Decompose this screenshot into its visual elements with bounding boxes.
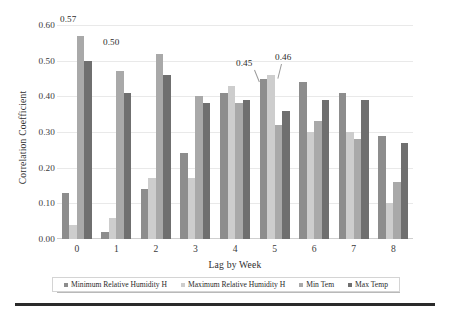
y-axis-tick: 0.60 [39, 20, 55, 30]
legend-item-label: Min Tem [306, 280, 334, 289]
bar[interactable] [346, 132, 354, 239]
bar[interactable] [307, 132, 315, 239]
data-label: 0.45 [236, 58, 252, 68]
square-swatch-icon [299, 283, 303, 287]
legend-item-label: Minimum Relative Humidity H [71, 280, 167, 289]
bar[interactable] [195, 96, 203, 239]
bar[interactable] [282, 111, 290, 239]
bar[interactable] [354, 139, 362, 239]
x-axis-tick: 3 [176, 241, 216, 257]
x-axis-tick-labels: 012345678 [57, 241, 413, 257]
chart-figure: Correlation Coefficient 0.000.100.200.30… [0, 0, 450, 311]
x-axis-tick: 5 [255, 241, 295, 257]
bar[interactable] [299, 82, 307, 239]
legend-item[interactable]: Max Temp [348, 280, 388, 289]
chart-legend: Minimum Relative Humidity HMaximum Relat… [52, 277, 400, 292]
bar[interactable] [163, 75, 171, 239]
bar-groups [57, 25, 413, 239]
y-axis-tick: 0.40 [39, 91, 55, 101]
bar[interactable] [401, 143, 409, 239]
legend-item[interactable]: Minimum Relative Humidity H [64, 280, 167, 289]
bar-group [136, 25, 176, 239]
y-axis-tick: 0.10 [39, 198, 55, 208]
bar[interactable] [322, 100, 330, 239]
legend-item-label: Max Temp [355, 280, 388, 289]
bar[interactable] [228, 86, 236, 239]
y-axis-tick: 0.30 [39, 127, 55, 137]
bar-group [374, 25, 414, 239]
bar-group [334, 25, 374, 239]
bar[interactable] [116, 71, 124, 239]
bar[interactable] [156, 54, 164, 239]
bar[interactable] [84, 61, 92, 239]
bar[interactable] [386, 203, 394, 239]
bar[interactable] [378, 136, 386, 239]
legend-item[interactable]: Maximum Relative Humidity H [181, 280, 285, 289]
bar[interactable] [339, 93, 347, 239]
bar[interactable] [141, 189, 149, 239]
bar[interactable] [203, 103, 211, 239]
bar[interactable] [275, 125, 283, 239]
x-axis-tick: 2 [136, 241, 176, 257]
bar[interactable] [314, 121, 322, 239]
y-axis-tick: 0.00 [39, 234, 55, 244]
x-axis-tick: 1 [97, 241, 137, 257]
x-axis-tick: 0 [57, 241, 97, 257]
bar[interactable] [220, 93, 228, 239]
bar[interactable] [260, 79, 268, 240]
legend-item[interactable]: Min Tem [299, 280, 334, 289]
bar[interactable] [188, 178, 196, 239]
x-axis-tick: 4 [215, 241, 255, 257]
square-swatch-icon [348, 283, 352, 287]
bar[interactable] [62, 193, 70, 239]
bar[interactable] [124, 93, 132, 239]
bar[interactable] [243, 100, 251, 239]
x-axis-tick: 8 [374, 241, 414, 257]
bar-group [57, 25, 97, 239]
y-axis-tick: 0.20 [39, 163, 55, 173]
bar[interactable] [267, 75, 275, 239]
plot-area: 0.570.500.450.46 [57, 25, 413, 239]
x-axis-tick: 7 [334, 241, 374, 257]
x-axis-tick: 6 [294, 241, 334, 257]
bar-group [176, 25, 216, 239]
bar[interactable] [361, 100, 369, 239]
data-label: 0.50 [103, 37, 119, 47]
bar[interactable] [77, 36, 85, 239]
bar[interactable] [393, 182, 401, 239]
bar[interactable] [180, 153, 188, 239]
data-label: 0.57 [60, 14, 76, 24]
square-swatch-icon [64, 283, 68, 287]
bar[interactable] [235, 103, 243, 239]
y-axis-tick-labels: 0.000.100.200.300.400.500.60 [22, 25, 55, 239]
square-swatch-icon [181, 283, 185, 287]
bar[interactable] [148, 178, 156, 239]
bar[interactable] [101, 232, 109, 239]
bar[interactable] [69, 225, 77, 239]
legend-item-label: Maximum Relative Humidity H [188, 280, 285, 289]
bar-group [294, 25, 334, 239]
divider-thin [57, 292, 400, 293]
y-axis-tick: 0.50 [39, 56, 55, 66]
divider-thick [15, 303, 435, 306]
bar-group [97, 25, 137, 239]
data-label: 0.46 [275, 52, 291, 62]
x-axis-title: Lag by Week [57, 259, 413, 270]
bar[interactable] [109, 218, 117, 239]
